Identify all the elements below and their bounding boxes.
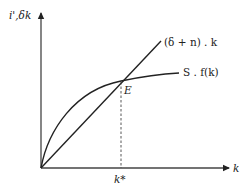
- curve-label: S . f(k): [183, 66, 219, 78]
- line-label: (δ + n) . k: [164, 36, 218, 48]
- x-axis-label: k: [233, 162, 239, 174]
- steady-state-k-label: k*: [114, 173, 126, 185]
- solow-model-diagram: i',δk k (δ + n) . k S . f(k) E k*: [0, 0, 252, 195]
- depreciation-line: [41, 41, 161, 168]
- y-axis-label: i',δk: [9, 9, 31, 21]
- equilibrium-point-label: E: [123, 84, 132, 96]
- savings-curve: [41, 73, 179, 168]
